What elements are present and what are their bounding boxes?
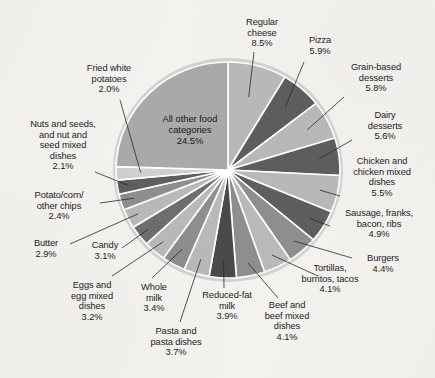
callout-reduced-fat-milk: Reduced-fat milk 3.9%: [192, 290, 262, 322]
callout-fried-white-potatoes: Fried white potatoes 2.0%: [72, 63, 146, 95]
callout-dairy-desserts: Dairy desserts 5.6%: [347, 110, 423, 142]
callout-eggs-and-egg-mixed-dishes: Eggs and egg mixed dishes 3.2%: [57, 280, 127, 322]
callout-butter: Butter 2.9%: [23, 238, 69, 259]
pie-chart-figure: All other food categories 24.5% Regular …: [0, 0, 435, 378]
callout-potato-corn-other-chips: Potato/corn/ other chips 2.4%: [23, 190, 95, 222]
callout-grain-based-desserts: Grain-based desserts 5.8%: [334, 62, 418, 94]
slice-label-all-other-food-categories: All other food categories 24.5%: [140, 114, 240, 146]
callout-nuts-and-seeds: Nuts and seeds, and nut and seed mixed d…: [20, 119, 106, 172]
callout-beef-and-beef-mixed-dishes: Beef and beef mixed dishes 4.1%: [252, 300, 322, 342]
callout-regular-cheese: Regular cheese 8.5%: [228, 17, 296, 49]
callout-whole-milk: Whole milk 3.4%: [129, 282, 179, 314]
callout-pizza: Pizza 5.9%: [292, 35, 348, 56]
callout-sausage-franks-bacon-ribs: Sausage, franks, bacon, ribs 4.9%: [326, 208, 432, 240]
callout-chicken-and-chicken-mixed-dishes: Chicken and chicken mixed dishes 5.5%: [334, 156, 430, 198]
callout-pasta-and-pasta-dishes: Pasta and pasta dishes 3.7%: [135, 326, 217, 358]
callout-tortillas-burritos-tacos: Tortillas, burritos, tacos 4.1%: [287, 263, 373, 295]
callout-candy: Candy 3.1%: [82, 240, 128, 261]
pie-slices: [116, 62, 340, 278]
